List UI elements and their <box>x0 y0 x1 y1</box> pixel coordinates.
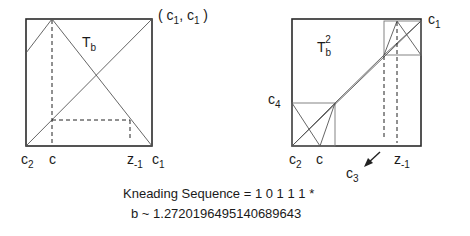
arrow-icon <box>364 152 380 167</box>
right-top-box-diagonal <box>384 21 421 55</box>
right-bottom-box-diagonal <box>292 103 335 146</box>
left-label-c1: c1 <box>152 151 165 170</box>
left-corner-label: ( c1, c1 ) <box>158 7 208 26</box>
left-title: Tb <box>82 34 97 53</box>
left-panel-tent-map: Tb ( c1, c1 ) c2 c z-1 c1 <box>21 7 208 170</box>
right-label-z-1: z-1 <box>394 151 410 170</box>
right-label-c: c <box>316 151 323 167</box>
right-label-c2: c2 <box>289 151 302 170</box>
kneading-sequence-caption: Kneading Sequence = 1 0 1 1 1 * <box>123 186 314 201</box>
left-label-c: c <box>49 151 56 167</box>
left-label-z-1: z-1 <box>127 151 143 170</box>
left-label-c2: c2 <box>21 151 34 170</box>
right-label-c3: c3 <box>346 165 359 184</box>
right-label-c1: c1 <box>428 11 441 30</box>
right-title: Tb2 <box>317 34 332 58</box>
right-label-c4: c4 <box>268 91 281 110</box>
diagram-canvas: Tb ( c1, c1 ) c2 c z-1 c1 Tb2 c1 c4 c2 c <box>0 0 470 236</box>
right-panel-second-iterate: Tb2 c1 c4 c2 c c3 z-1 <box>268 11 441 184</box>
b-value-caption: b ~ 1.2720196495140689643 <box>131 206 301 221</box>
